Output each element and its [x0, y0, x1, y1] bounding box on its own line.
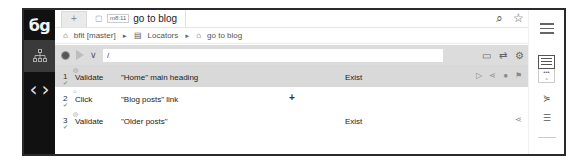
breadcrumb-separator: ► — [184, 33, 190, 39]
step-target: "Blog posts" link — [121, 95, 178, 104]
row-actions: ⋖ — [515, 115, 522, 124]
breadcrumb-item-repo[interactable]: bfit [master] — [74, 31, 116, 40]
menu-icon[interactable] — [540, 20, 554, 37]
folder-icon: ▤ — [134, 31, 142, 40]
breadcrumb-item-test[interactable]: go to blog — [207, 31, 242, 40]
step-row[interactable]: 1 ✔ ◎ Validate "Home" main heading Exist… — [55, 65, 530, 87]
step-action: Validate — [75, 73, 103, 82]
toolbar-actions: ▭ ⇄ ⚙ — [482, 50, 530, 61]
document-icon[interactable]: ☰ — [543, 113, 551, 123]
step-value: Exist — [345, 73, 362, 82]
share-icon[interactable]: ⋖ — [489, 71, 496, 80]
crosshair-cursor-icon: + — [289, 92, 295, 103]
test-icon: ⌂ — [196, 31, 201, 40]
breadcrumb-item-locators[interactable]: Locators — [148, 31, 179, 40]
tab-bar: + ▢ m8:11 go to blog ⌕ ☆ — [55, 10, 530, 28]
step-toolbar: ∨ ▭ ⇄ ⚙ — [55, 45, 530, 65]
sitemap-icon — [33, 49, 47, 63]
tab-badge: m8:11 — [107, 14, 129, 23]
add-tab-button[interactable]: + — [61, 11, 87, 27]
divider — [538, 137, 556, 138]
breadcrumb: ⌂ bfit [master] ► ▤ Locators ► ⌂ go to b… — [55, 28, 530, 44]
flag-icon[interactable]: ⚑ — [515, 71, 522, 80]
breadcrumb-separator: ► — [122, 33, 128, 39]
elements-icon[interactable]: •••▫ — [538, 69, 555, 83]
step-action: Click — [75, 95, 92, 104]
check-icon: ✔ — [63, 101, 68, 108]
main-panel: + ▢ m8:11 go to blog ⌕ ☆ ⌂ bfit [master]… — [55, 10, 530, 154]
tab-bar-actions: ⌕ ☆ — [496, 11, 524, 25]
test-file-icon: ▢ — [95, 14, 103, 23]
validate-icon: ◎ — [73, 110, 78, 117]
step-action: Validate — [75, 117, 103, 126]
tab-label: go to blog — [133, 13, 177, 24]
back-arrow-icon[interactable]: ‹ — [30, 77, 38, 101]
check-icon: ✔ — [63, 123, 68, 130]
row-actions: ▷ ⋖ ● ⚑ — [476, 71, 522, 80]
run-step-icon[interactable]: ▷ — [476, 71, 482, 80]
click-icon: ⌂ — [73, 88, 77, 94]
tab-go-to-blog[interactable]: ▢ m8:11 go to blog — [87, 10, 186, 27]
swap-icon[interactable]: ⇄ — [499, 50, 507, 61]
search-icon[interactable]: ⌕ — [496, 11, 503, 25]
record-icon[interactable]: ● — [503, 71, 508, 80]
app-window: бg ‹ › + ▢ m8:11 go to b — [22, 8, 566, 156]
app-logo: бg — [24, 10, 55, 40]
right-sidebar: •••▫ ⋟ ☰ — [528, 10, 564, 154]
play-button[interactable] — [76, 50, 84, 60]
step-row[interactable]: 3 ✔ ◎ Validate "Older posts" Exist ⋖ — [55, 109, 530, 131]
sitemap-button[interactable] — [24, 40, 55, 72]
steps-list-icon[interactable] — [538, 55, 555, 69]
validate-icon: ◎ — [73, 66, 78, 73]
settings-gear-icon[interactable]: ⚙ — [515, 50, 524, 61]
left-sidebar: бg ‹ › — [24, 10, 55, 154]
flow-icon[interactable]: ⋟ — [543, 93, 551, 103]
step-target: "Home" main heading — [121, 73, 198, 82]
step-value: Exist — [345, 117, 362, 126]
record-button[interactable] — [61, 51, 70, 60]
url-path-input[interactable] — [103, 49, 443, 62]
star-icon[interactable]: ☆ — [513, 11, 524, 25]
forward-arrow-icon[interactable]: › — [42, 77, 50, 101]
step-target: "Older posts" — [121, 117, 168, 126]
nav-arrows: ‹ › — [24, 72, 55, 106]
check-icon: ✔ — [63, 79, 68, 86]
repo-icon: ⌂ — [63, 31, 68, 40]
share-icon[interactable]: ⋖ — [515, 115, 522, 124]
screen-icon[interactable]: ▭ — [482, 50, 491, 61]
chevron-down-icon[interactable]: ∨ — [90, 50, 97, 60]
